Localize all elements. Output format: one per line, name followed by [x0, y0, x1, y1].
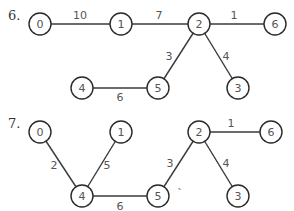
- node-label: 6: [268, 126, 275, 139]
- node-label: 3: [235, 190, 242, 203]
- node-4: 4: [71, 77, 93, 99]
- edge-weight-label: 1: [231, 9, 238, 22]
- edge-weight-label: 3: [167, 157, 174, 170]
- node-label: 4: [79, 82, 86, 95]
- node-5: 5: [147, 77, 169, 99]
- problem-number: 7.: [8, 116, 20, 131]
- edge-weight-label: 7: [156, 9, 163, 22]
- node-1: 1: [110, 13, 132, 35]
- node-6: 6: [260, 121, 282, 143]
- node-label: 4: [79, 190, 86, 203]
- edge-weight-label: 4: [223, 157, 230, 170]
- edge-weight-label: 1: [228, 117, 235, 130]
- node-5: 5: [147, 185, 169, 207]
- graph-6: 6.10713460126453: [8, 8, 286, 104]
- node-label: 1: [118, 18, 125, 31]
- stray-mark: `: [177, 187, 183, 200]
- node-label: 0: [37, 126, 44, 139]
- edge-weight-label: 4: [223, 50, 230, 63]
- problem-number: 6.: [8, 8, 20, 23]
- node-2: 2: [188, 121, 210, 143]
- node-1: 1: [110, 121, 132, 143]
- edge-weight-label: 6: [117, 91, 124, 104]
- node-label: 0: [37, 18, 44, 31]
- node-6: 6: [264, 13, 286, 35]
- node-label: 5: [155, 82, 162, 95]
- node-2: 2: [188, 13, 210, 35]
- edge-weight-label: 2: [51, 159, 58, 172]
- node-label: 2: [196, 18, 203, 31]
- node-label: 1: [118, 126, 125, 139]
- node-0: 0: [29, 121, 51, 143]
- graph-7: 7.2513460126453`: [8, 116, 282, 210]
- node-0: 0: [29, 13, 51, 35]
- edge-weight-label: 10: [73, 9, 87, 22]
- node-4: 4: [71, 185, 93, 207]
- edge-weight-label: 5: [104, 159, 111, 172]
- node-label: 2: [196, 126, 203, 139]
- node-label: 5: [155, 190, 162, 203]
- node-3: 3: [227, 77, 249, 99]
- node-label: 6: [272, 18, 279, 31]
- node-label: 3: [235, 82, 242, 95]
- graph-diagram: 6.10713460126453 7.2513460126453`: [0, 0, 294, 210]
- edge-weight-label: 3: [166, 50, 173, 63]
- node-3: 3: [227, 185, 249, 207]
- edge-weight-label: 6: [117, 200, 124, 211]
